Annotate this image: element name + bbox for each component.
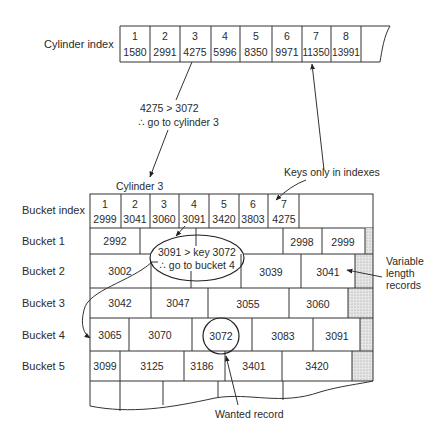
- arrow-to-cylinder-key-icon: [312, 64, 324, 170]
- record: 2992: [103, 235, 127, 247]
- cylinder-key: 8350: [244, 46, 268, 58]
- variable-label-2: length: [386, 267, 415, 279]
- record: 3065: [98, 329, 122, 341]
- cylinder-key: 11350: [302, 47, 330, 58]
- cylinder-number: 6: [284, 30, 290, 42]
- pointer-line: [176, 62, 192, 100]
- record: 3041: [316, 266, 340, 278]
- record: 3186: [190, 360, 214, 372]
- record: 3002: [108, 265, 132, 277]
- cylinder-key: 13991: [332, 47, 360, 58]
- record: 3099: [93, 360, 117, 372]
- bucket-number: 2: [132, 198, 138, 210]
- bucket-label: Bucket 3: [22, 297, 65, 309]
- bucket-key: 3091: [182, 213, 206, 225]
- cylinder-number: 4: [222, 30, 228, 42]
- bucket-key: 3803: [241, 213, 265, 225]
- bucket-index-label: Bucket index: [22, 204, 85, 216]
- record: 3055: [236, 298, 260, 310]
- cylinder-number: 8: [343, 30, 349, 42]
- cylinder-number: 1: [132, 30, 138, 42]
- cylinder-number: 7: [313, 30, 319, 42]
- bucket-number: 1: [102, 198, 108, 210]
- record: 2998: [290, 236, 314, 248]
- variable-label-1: Variable: [386, 255, 424, 267]
- record: 2999: [331, 236, 355, 248]
- record: 3091: [325, 330, 349, 342]
- bucket-number: 5: [221, 198, 227, 210]
- arrow-to-cylinder-icon: [150, 130, 168, 177]
- bucket-number: 7: [281, 198, 287, 210]
- record: 3401: [242, 360, 266, 372]
- indexed-file-diagram: Cylinder index 1 1580 2 2991 3 4275 4 59…: [0, 0, 446, 436]
- cylinder-key: 2991: [153, 46, 177, 58]
- cylinder-key: 1580: [123, 46, 147, 58]
- bucket-label: Bucket 4: [22, 329, 65, 341]
- keys-only-text: Keys only in indexes: [284, 166, 380, 178]
- record: 3083: [271, 330, 295, 342]
- bucket-key: 2999: [93, 213, 117, 225]
- bucket-index-table: 1 2999 2 3041 3 3060 4 3091 5 3420 6 380…: [90, 194, 373, 228]
- record: 3070: [148, 329, 172, 341]
- bucket-number: 6: [250, 198, 256, 210]
- bucket-key: 3420: [212, 213, 236, 225]
- record: 3420: [305, 360, 329, 372]
- bucket-key: 3041: [123, 213, 147, 225]
- cylinder-index-label: Cylinder index: [44, 38, 114, 50]
- bucket-label: Bucket 5: [22, 360, 65, 372]
- cylinder-key: 5996: [213, 46, 237, 58]
- wanted-record-label: Wanted record: [215, 408, 284, 420]
- cylinder-goto-text: ∴ go to cylinder 3: [138, 116, 219, 128]
- cylinder-number: 3: [192, 30, 198, 42]
- cylinder-title: Cylinder 3: [116, 180, 163, 192]
- bucket-label: Bucket 1: [22, 235, 65, 247]
- bucket-key: 4275: [272, 213, 296, 225]
- wanted-record: 3072: [209, 330, 233, 342]
- cylinder-number: 2: [162, 30, 168, 42]
- variable-label-3: records: [386, 279, 421, 291]
- arrow-to-bucket-key-icon: [276, 180, 306, 200]
- record: 3060: [306, 298, 330, 310]
- bucket-number: 3: [161, 198, 167, 210]
- bucket-label: Bucket 2: [22, 265, 65, 277]
- bucket-compare-text: 3091 > key 3072: [158, 246, 236, 258]
- cylinder-compare-text: 4275 > 3072: [140, 102, 199, 114]
- cylinder-number: 5: [253, 30, 259, 42]
- bucket-goto-text: ∴ go to bucket 4: [159, 259, 235, 271]
- bucket-key: 3060: [152, 213, 176, 225]
- cylinder-key: 4275: [183, 46, 207, 58]
- cylinder-index-table: 1 1580 2 2991 3 4275 4 5996 5 8350 6 997…: [120, 26, 390, 62]
- cylinder-key: 9971: [275, 46, 299, 58]
- decision-ellipse: [150, 235, 244, 281]
- record: 3042: [108, 297, 132, 309]
- record: 3039: [259, 266, 283, 278]
- record: 3125: [140, 360, 164, 372]
- bucket-number: 4: [191, 198, 197, 210]
- record: 3047: [166, 297, 190, 309]
